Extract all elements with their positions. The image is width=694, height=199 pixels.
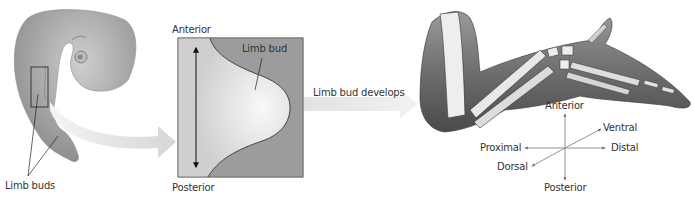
embryo-illustration: [14, 10, 136, 176]
axis-proximal-label: Proximal: [480, 143, 521, 153]
limb-bud-detail-panel: [178, 38, 303, 177]
limb-bud-pointer-lower: [28, 136, 58, 176]
axis-dorsal-arrow: [532, 148, 565, 166]
axis-anterior-label: Anterior: [545, 101, 584, 111]
axis-compass: [525, 114, 605, 180]
axis-posterior-label: Posterior: [544, 183, 586, 193]
diagram-canvas: [0, 0, 694, 199]
anterior-label: Anterior: [172, 25, 211, 35]
limb-bud-label: Limb bud: [242, 44, 287, 54]
axis-ventral-arrow: [565, 129, 601, 148]
axis-distal-label: Distal: [611, 143, 638, 153]
developed-limb-illustration: [420, 12, 690, 132]
axis-dorsal-label: Dorsal: [497, 162, 528, 172]
limb-buds-label: Limb buds: [5, 181, 55, 191]
posterior-label: Posterior: [172, 183, 214, 193]
axis-ventral-label: Ventral: [603, 123, 637, 133]
limb-bud-develops-label: Limb bud develops: [313, 88, 404, 98]
